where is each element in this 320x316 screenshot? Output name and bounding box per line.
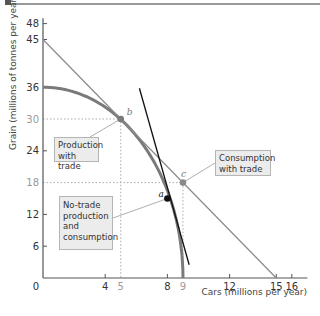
point-label-b: b: [127, 107, 133, 117]
x-tick-label: 0: [33, 281, 39, 292]
leader-c: [183, 163, 215, 183]
x-tick-label: 8: [164, 281, 170, 292]
callout-production-with-trade: Production with trade: [54, 137, 99, 162]
y-tick-label: 6: [33, 241, 39, 252]
callout-text: with trade: [58, 151, 95, 172]
x-tick-label: 9: [180, 281, 186, 292]
callout-text: consumption: [63, 232, 109, 243]
y-axis-title: Grain (millions of tonnes per year): [8, 0, 18, 150]
callout-text: production: [63, 211, 109, 222]
callout-no-trade: No-trade production and consumption: [59, 196, 113, 250]
x-tick-label: 4: [102, 281, 108, 292]
callout-consumption-with-trade: Consumption with trade: [215, 150, 271, 176]
callout-text: Production: [58, 140, 95, 151]
point-label-a: a: [158, 189, 163, 199]
y-tick-label: 12: [26, 209, 39, 220]
x-tick-label: 5: [118, 281, 124, 292]
callout-text: Consumption: [219, 153, 267, 164]
callout-text: No-trade: [63, 200, 109, 211]
leader-a: [113, 199, 167, 219]
y-tick-label: 30: [26, 114, 39, 125]
leader-b: [90, 119, 121, 137]
data-points: abc: [117, 107, 186, 202]
callout-text: and: [63, 221, 109, 232]
y-tick-label: 24: [26, 145, 39, 156]
y-tick-label: 48: [26, 18, 39, 29]
y-tick-label: 45: [26, 34, 39, 45]
y-tick-label: 18: [26, 177, 39, 188]
point-b: [117, 116, 124, 123]
point-c: [180, 179, 187, 186]
point-label-c: c: [181, 169, 186, 179]
y-tick-label: 36: [26, 82, 39, 93]
point-a: [164, 195, 171, 202]
x-axis-title: Cars (millions per year): [202, 287, 308, 297]
callout-text: with trade: [219, 164, 267, 175]
